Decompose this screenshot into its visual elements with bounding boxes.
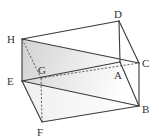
- vertex-label-c: C: [142, 57, 149, 69]
- vertex-label-e: E: [7, 75, 14, 87]
- vertex-label-b: B: [142, 103, 149, 115]
- prism-diagram: A B C D E F G H: [0, 0, 159, 140]
- vertex-label-d: D: [114, 8, 122, 20]
- vertex-label-h: H: [7, 33, 15, 45]
- edge-da: [119, 21, 120, 62]
- edge-hd: [22, 21, 119, 39]
- vertex-label-g: G: [38, 64, 46, 76]
- vertex-label-f: F: [37, 126, 43, 138]
- edge-dc: [119, 21, 139, 63]
- vertex-label-a: A: [114, 69, 122, 81]
